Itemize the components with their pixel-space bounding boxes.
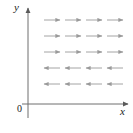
y-axis-label: y	[14, 2, 19, 13]
origin-label: 0	[17, 104, 22, 114]
direction-field-figure: y x 0	[0, 0, 133, 133]
x-axis-label: x	[120, 106, 125, 117]
vector-field-group	[44, 20, 123, 84]
axes-group	[22, 8, 128, 118]
